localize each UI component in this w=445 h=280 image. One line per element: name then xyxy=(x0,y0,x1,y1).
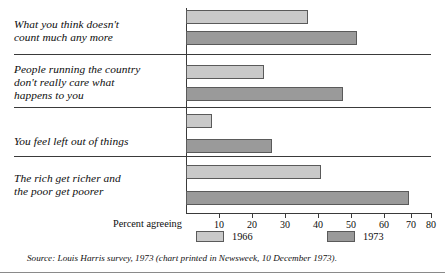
x-tick-label-30: 30 xyxy=(272,219,298,230)
x-tick-label-80: 80 xyxy=(418,219,444,230)
x-tick-70 xyxy=(411,213,412,218)
bottom-rule xyxy=(0,272,445,273)
group-separator-3 xyxy=(14,156,431,157)
source-note: Source: Louis Harris survey, 1973 (chart… xyxy=(27,253,337,263)
chart-group-4: The rich get richer and the poor get poo… xyxy=(0,158,445,213)
x-tick-20 xyxy=(252,213,253,218)
bar-1966-group-4 xyxy=(186,165,321,179)
x-tick-label-50: 50 xyxy=(338,219,364,230)
x-tick-40 xyxy=(318,213,319,218)
legend-label-1973: 1973 xyxy=(363,231,384,242)
bar-1966-group-2 xyxy=(186,65,264,79)
category-label-3: You feel left out of things xyxy=(14,135,184,148)
bar-chart-figure: What you think doesn't count much any mo… xyxy=(0,0,445,280)
legend-label-1966: 1966 xyxy=(232,231,253,242)
x-tick-10 xyxy=(219,213,220,218)
x-tick-label-40: 40 xyxy=(305,219,331,230)
x-tick-label-60: 60 xyxy=(371,219,397,230)
category-label-2-line2: don't really care what xyxy=(14,76,114,88)
x-tick-50 xyxy=(351,213,352,218)
bar-1973-group-3 xyxy=(186,139,272,153)
category-label-4-line2: the poor get poorer xyxy=(14,185,103,197)
x-axis-title: Percent agreeing xyxy=(113,218,182,229)
category-label-2-line3: happens to you xyxy=(14,89,84,101)
bar-1966-group-3 xyxy=(186,114,212,128)
bar-1966-group-1 xyxy=(186,10,308,24)
legend-swatch-1973-icon xyxy=(327,231,355,242)
bar-1973-group-4 xyxy=(186,191,409,205)
x-axis-line xyxy=(186,213,431,214)
x-tick-label-20: 20 xyxy=(239,219,265,230)
x-tick-label-10: 10 xyxy=(206,219,232,230)
legend-item-1973: 1973 xyxy=(327,231,384,242)
chart-group-1: What you think doesn't count much any mo… xyxy=(0,0,445,53)
plot-area: What you think doesn't count much any mo… xyxy=(0,0,445,215)
category-label-1-line2: count much any more xyxy=(14,31,113,43)
category-label-4: The rich get richer and the poor get poo… xyxy=(14,172,184,198)
category-label-3-line1: You feel left out of things xyxy=(14,135,129,147)
chart-group-3: You feel left out of things xyxy=(0,108,445,158)
category-label-2: People running the country don't really … xyxy=(14,63,184,103)
bar-1973-group-2 xyxy=(186,87,343,101)
x-tick-30 xyxy=(285,213,286,218)
chart-group-2: People running the country don't really … xyxy=(0,55,445,108)
category-label-1-line1: What you think doesn't xyxy=(14,18,119,30)
legend-swatch-1966-icon xyxy=(196,231,224,242)
bar-1973-group-1 xyxy=(186,31,357,45)
category-label-4-line1: The rich get richer and xyxy=(14,172,121,184)
legend-item-1966: 1966 xyxy=(196,231,253,242)
x-tick-60 xyxy=(384,213,385,218)
x-tick-80 xyxy=(431,213,432,218)
category-label-2-line1: People running the country xyxy=(14,63,140,75)
category-label-1: What you think doesn't count much any mo… xyxy=(14,18,184,44)
